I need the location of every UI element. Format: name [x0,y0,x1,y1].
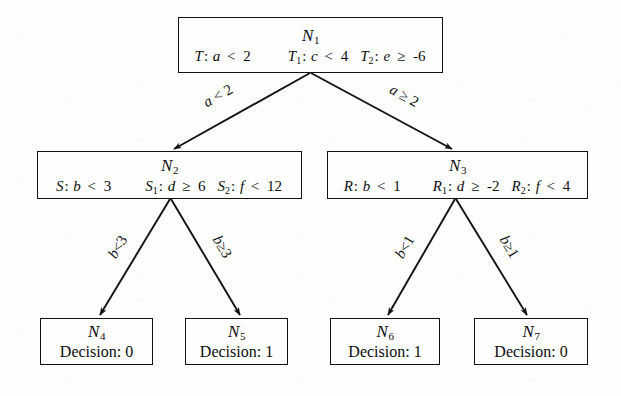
tree-node-n3[interactable]: N3 R: b < 1 R1: d ≥ -2 R2: f < 4 [327,151,588,199]
node-n2-rules: S: b < 3 S1: d ≥ 6 S2: f < 12 [56,179,283,194]
node-n5-decision: Decision: 1 [200,344,273,360]
node-n3-rule-2: R2: f < 4 [512,179,572,194]
node-n7-id: N7 [522,323,539,340]
edge-label-n2-n4: b<3 [105,233,132,262]
tree-node-n1[interactable]: N1 T: a < 2 T1: c < 4 T2: e ≥ -6 [178,17,443,73]
tree-node-n5[interactable]: N5 Decision: 1 [185,318,288,365]
node-n7-decision: Decision: 0 [494,344,567,360]
edge-n1-n2 [174,73,310,149]
node-n3-rule-0: R: b < 1 [344,179,402,194]
edge-label-n1-n2: a < 2 [200,81,235,111]
edge-label-n3-n7: b≥1 [496,233,523,262]
edge-n1-n3 [311,73,452,149]
node-n4-decision: Decision: 0 [60,344,133,360]
node-n2-rule-2: S2: f < 12 [217,179,283,194]
node-n3-rules: R: b < 1 R1: d ≥ -2 R2: f < 4 [344,179,572,194]
edge-n2-n5 [171,199,240,315]
node-n1-rule-2: T2: e ≥ -6 [360,49,426,64]
node-n2-rule-0: S: b < 3 [56,179,112,194]
node-n6-decision: Decision: 1 [348,344,421,360]
node-n6-id: N6 [376,323,393,340]
tree-node-n7[interactable]: N7 Decision: 0 [474,318,588,365]
tree-node-n6[interactable]: N6 Decision: 1 [330,318,440,365]
node-n2-id: N2 [161,157,178,174]
node-n3-id: N3 [449,157,466,174]
node-n4-id: N4 [88,323,105,340]
tree-node-n2[interactable]: N2 S: b < 3 S1: d ≥ 6 S2: f < 12 [37,151,302,199]
edge-n3-n7 [456,199,527,315]
node-n1-rule-0: T: a < 2 [195,49,252,64]
node-n5-id: N5 [228,323,245,340]
node-n2-rule-1: S1: d ≥ 6 [145,179,206,194]
decision-tree-figure: N1 T: a < 2 T1: c < 4 T2: e ≥ -6 N2 S: b… [0,0,621,396]
node-n3-rule-1: R1: d ≥ -2 [433,179,501,194]
node-n1-rules: T: a < 2 T1: c < 4 T2: e ≥ -6 [195,49,427,64]
edge-label-n3-n6: b<1 [392,233,419,262]
node-n1-id: N1 [302,27,319,44]
tree-node-n4[interactable]: N4 Decision: 0 [40,318,153,365]
edge-n2-n4 [100,199,170,315]
node-n1-rule-1: T1: c < 4 [288,49,349,64]
edge-label-n2-n5: b≥3 [209,233,236,262]
edge-label-n1-n3: a ≥ 2 [386,81,421,111]
